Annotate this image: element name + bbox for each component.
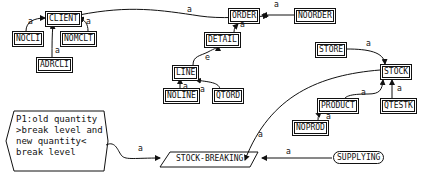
- edge-label-e: e: [205, 53, 210, 62]
- entity-product[interactable]: PRODUCT: [317, 98, 359, 114]
- edge-label-a: a: [138, 144, 143, 153]
- event-stock-breaking[interactable]: STOCK-BREAKING: [176, 154, 243, 163]
- entity-client[interactable]: CLIENT: [45, 11, 82, 27]
- predicate-line-1: P1:old quantity: [16, 114, 103, 125]
- edge-label-a: a: [258, 130, 263, 139]
- edge-label-a: a: [274, 0, 279, 9]
- edge-label-a: a: [86, 17, 91, 26]
- predicate-line-3: new quantity<: [16, 136, 103, 147]
- edge-label-a: a: [55, 46, 60, 55]
- attribute-noline[interactable]: NOLINE: [163, 88, 200, 104]
- predicate-p1[interactable]: P1:old quantity>break level andnew quant…: [16, 114, 103, 158]
- edge-label-a: a: [28, 17, 33, 26]
- predicate-line-2: >break level and: [16, 125, 103, 136]
- attribute-nocli[interactable]: NOCLI: [12, 31, 44, 47]
- entity-stock[interactable]: STOCK: [380, 64, 412, 80]
- edge-label-a: a: [326, 112, 331, 121]
- edge-label-a: a: [361, 88, 366, 97]
- attribute-nomclt[interactable]: NOMCLT: [60, 31, 97, 47]
- edge-label-a: a: [286, 147, 291, 156]
- edge-label-a: a: [187, 5, 192, 14]
- edge-label-a: a: [183, 82, 188, 91]
- edge-label-a: a: [200, 85, 205, 94]
- entity-store[interactable]: STORE: [315, 42, 347, 58]
- attribute-noorder[interactable]: NOORDER: [294, 8, 336, 24]
- edge-label-a: a: [366, 39, 371, 48]
- predicate-line-4: break level: [16, 147, 103, 158]
- edge-label-a: a: [397, 84, 402, 93]
- attribute-qtord[interactable]: QTORD: [212, 88, 244, 104]
- attribute-qtestk[interactable]: QTESTK: [380, 98, 417, 114]
- attribute-noprod[interactable]: NOPROD: [292, 120, 329, 136]
- entity-detail[interactable]: DETAIL: [204, 32, 241, 48]
- edge-label-a: a: [240, 20, 245, 29]
- attribute-adrcli[interactable]: ADRCLI: [36, 57, 73, 73]
- entity-line[interactable]: LINE: [172, 65, 199, 81]
- event-supplying[interactable]: SUPPLYING: [333, 151, 384, 164]
